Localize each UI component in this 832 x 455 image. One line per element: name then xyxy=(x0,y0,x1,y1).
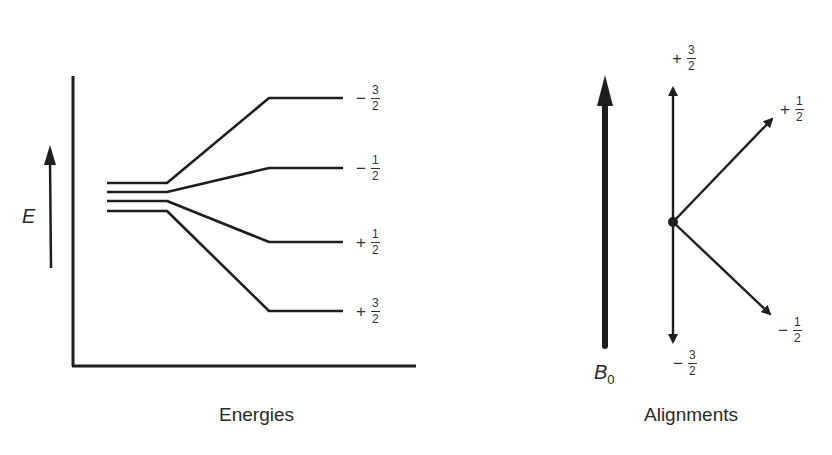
level-label-minus-1-2: − 12 xyxy=(356,155,380,182)
vector-sign: + xyxy=(672,49,682,69)
denominator: 2 xyxy=(372,314,379,325)
level-minus-1-2 xyxy=(107,168,343,192)
level-plus-3-2 xyxy=(107,211,343,311)
numerator: 1 xyxy=(372,229,379,240)
numerator: 3 xyxy=(689,350,696,361)
energy-axis-label: E xyxy=(22,205,35,228)
vector-label-lower-right: − 12 xyxy=(778,317,802,344)
alignments-caption: Alignments xyxy=(644,404,738,426)
spin-vectors xyxy=(673,88,772,342)
b0-field-label: B0 xyxy=(594,361,615,384)
energy-direction-arrow-icon xyxy=(44,145,56,268)
level-minus-3-2 xyxy=(107,98,343,183)
numerator: 3 xyxy=(688,45,695,56)
b0-symbol: B xyxy=(594,361,607,383)
diagram-canvas xyxy=(0,0,832,455)
energy-levels xyxy=(107,98,343,311)
denominator: 2 xyxy=(689,366,696,377)
b0-subscript: 0 xyxy=(607,372,614,387)
b0-field-arrow-icon xyxy=(597,75,613,346)
vector-label-down: − 32 xyxy=(673,350,697,377)
numerator: 1 xyxy=(372,155,379,166)
denominator: 2 xyxy=(794,333,801,344)
origin-dot-icon xyxy=(668,217,678,227)
numerator: 1 xyxy=(796,96,803,107)
level-sign: − xyxy=(356,89,366,109)
denominator: 2 xyxy=(372,171,379,182)
denominator: 2 xyxy=(372,245,379,256)
vector-sign: − xyxy=(673,354,683,374)
vector-label-up: + 32 xyxy=(672,45,696,72)
denominator: 2 xyxy=(688,61,695,72)
level-sign: + xyxy=(356,233,366,253)
numerator: 1 xyxy=(794,317,801,328)
vector-label-upper-right: + 12 xyxy=(780,96,804,123)
level-label-plus-3-2: + 32 xyxy=(356,298,380,325)
denominator: 2 xyxy=(372,101,379,112)
level-sign: + xyxy=(356,302,366,322)
vector-sign: + xyxy=(780,100,790,120)
level-label-plus-1-2: + 12 xyxy=(356,229,380,256)
numerator: 3 xyxy=(372,298,379,309)
denominator: 2 xyxy=(796,112,803,123)
vector-upper-right-icon xyxy=(673,119,772,222)
level-plus-1-2 xyxy=(107,201,343,242)
vector-lower-right-icon xyxy=(673,222,770,314)
numerator: 3 xyxy=(372,85,379,96)
level-label-minus-3-2: − 32 xyxy=(356,85,380,112)
level-sign: − xyxy=(356,159,366,179)
energies-caption: Energies xyxy=(219,404,294,426)
vector-sign: − xyxy=(778,321,788,341)
